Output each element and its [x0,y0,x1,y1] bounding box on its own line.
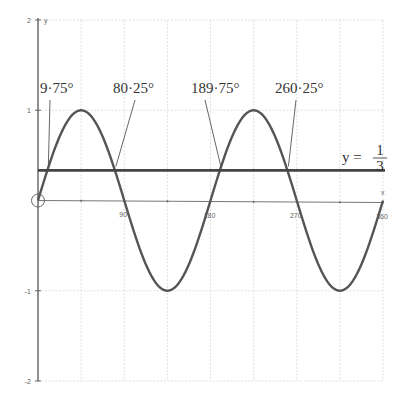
chart: yx9018027036021-1-2 9·75°80·25°189·75°26… [0,0,399,407]
y-tick-label: -2 [25,378,31,385]
equation-prefix: y = [342,149,362,165]
intersection-label: 9·75° [40,80,74,96]
y-tick-label: 2 [27,17,31,24]
axes [32,18,385,381]
intersection-label: 80·25° [113,80,154,96]
intersection-label: 189·75° [191,80,240,96]
fraction-denominator: 3 [376,158,384,174]
fraction-numerator: 1 [376,142,384,158]
x-axis-label: x [381,189,385,196]
y-tick-label: 1 [27,107,31,114]
x-axis-tick [339,201,341,203]
intersection-label: 260·25° [275,80,324,96]
leader-line [288,100,296,166]
x-axis-tick [80,200,82,202]
x-tick-label: 90 [119,211,127,218]
x-axis-tick [253,201,255,203]
y-tick-label: -1 [25,288,31,295]
y-axis-label: y [44,17,48,25]
x-axis-tick [166,200,168,202]
